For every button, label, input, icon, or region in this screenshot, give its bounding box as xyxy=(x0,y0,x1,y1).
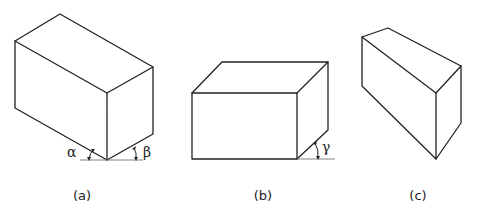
box-c xyxy=(362,28,461,159)
angle-beta-label: β xyxy=(143,144,151,160)
panel-a: α β (a) xyxy=(15,14,153,203)
panel-label-c: (c) xyxy=(409,188,426,203)
panel-b: γ (b) xyxy=(192,62,335,203)
box-b xyxy=(192,62,328,159)
projection-figure: α β (a) γ (b) xyxy=(0,0,477,215)
box-a xyxy=(15,14,153,160)
angle-alpha-label: α xyxy=(67,144,77,160)
angle-gamma-label: γ xyxy=(322,139,330,155)
angle-gamma-arc xyxy=(315,143,318,158)
panel-label-b: (b) xyxy=(254,188,272,203)
panel-label-a: (a) xyxy=(73,188,91,203)
panel-c: (c) xyxy=(362,28,461,203)
